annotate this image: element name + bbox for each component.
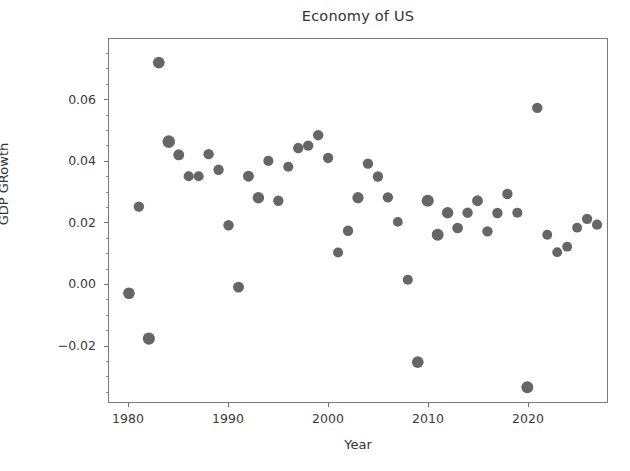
y-tick-label: 0.04: [36, 153, 96, 168]
data-point: [542, 230, 552, 240]
y-axis-label: GDP GRowth: [0, 143, 11, 226]
data-point: [253, 192, 264, 203]
plot-area: [108, 38, 608, 403]
data-point: [173, 149, 184, 160]
data-point: [233, 282, 244, 293]
data-point: [293, 143, 303, 153]
data-point: [213, 165, 223, 175]
data-point: [123, 287, 135, 299]
data-point: [273, 196, 283, 206]
data-point: [343, 226, 353, 236]
data-point: [452, 223, 463, 234]
data-point: [572, 223, 582, 233]
x-tick-label: 2010: [398, 411, 458, 426]
x-tick-mark: [128, 403, 129, 407]
data-point: [492, 208, 502, 218]
data-point: [134, 201, 144, 211]
data-point: [552, 247, 562, 257]
data-point: [283, 162, 293, 172]
chart-title: Economy of US: [108, 8, 608, 24]
y-tick-label: 0.02: [36, 215, 96, 230]
y-tick-label: 0.00: [36, 276, 96, 291]
data-point: [442, 207, 453, 218]
data-point: [462, 208, 472, 218]
data-point: [412, 356, 424, 368]
data-point: [263, 156, 273, 166]
data-point: [521, 381, 533, 393]
data-point: [243, 171, 254, 182]
data-point: [403, 275, 413, 285]
data-point: [592, 220, 602, 230]
x-tick-label: 2020: [498, 411, 558, 426]
data-point: [472, 195, 483, 206]
scatter-series: [109, 39, 607, 402]
x-tick-mark: [228, 403, 229, 407]
data-point: [512, 208, 522, 218]
data-point: [422, 195, 434, 207]
data-point: [313, 130, 323, 140]
x-tick-mark: [528, 403, 529, 407]
data-point: [194, 171, 204, 181]
data-point: [582, 214, 592, 224]
data-point: [203, 149, 213, 159]
data-point: [303, 140, 313, 150]
data-point: [432, 229, 444, 241]
x-axis-label: Year: [108, 437, 608, 452]
data-point: [502, 189, 512, 199]
data-point: [532, 103, 542, 113]
x-tick-mark: [328, 403, 329, 407]
y-tick-label: −0.02: [36, 338, 96, 353]
chart-figure: Economy of US GDP GRowth Year −0.020.000…: [0, 0, 630, 471]
data-point: [562, 242, 572, 252]
x-tick-mark: [428, 403, 429, 407]
y-tick-label: 0.06: [36, 92, 96, 107]
data-point: [162, 135, 175, 148]
data-point: [373, 171, 383, 181]
data-point: [482, 226, 492, 236]
data-point: [223, 220, 233, 230]
data-point: [143, 333, 155, 345]
x-tick-label: 1990: [198, 411, 258, 426]
x-tick-label: 2000: [298, 411, 358, 426]
data-point: [363, 158, 373, 168]
x-tick-label: 1980: [98, 411, 158, 426]
data-point: [323, 153, 333, 163]
data-point: [352, 192, 363, 203]
data-point: [184, 171, 194, 181]
data-point: [383, 192, 393, 202]
data-point: [153, 57, 165, 69]
data-point: [393, 217, 403, 227]
data-point: [333, 247, 343, 257]
